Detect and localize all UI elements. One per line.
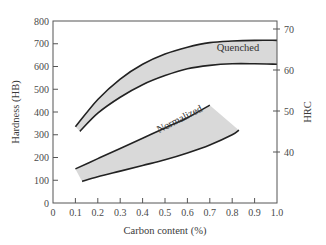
x-tick-label: 0.8 xyxy=(226,207,239,218)
y2-tick-label: 60 xyxy=(284,65,294,76)
x-axis-title: Carbon content (%) xyxy=(124,225,207,237)
x-tick-label: 0.2 xyxy=(92,207,105,218)
x-tick-label: 0.9 xyxy=(248,207,261,218)
y-tick-label: 200 xyxy=(34,152,49,163)
x-tick-label: 0 xyxy=(51,207,56,218)
x-tick-label: 0.7 xyxy=(204,207,217,218)
y-tick-label: 700 xyxy=(34,38,49,49)
x-tick-label: 0.6 xyxy=(181,207,194,218)
y-tick-label: 100 xyxy=(34,175,49,186)
x-tick-label: 0.5 xyxy=(159,207,172,218)
band-label-quenched: Quenched xyxy=(217,42,260,53)
x-tick-label: 0.3 xyxy=(114,207,127,218)
x-tick-label: 0.1 xyxy=(69,207,82,218)
x-tick-label: 0.4 xyxy=(136,207,149,218)
hardness-vs-carbon-chart: 00.10.20.30.40.50.60.70.80.91.0010020030… xyxy=(0,0,326,245)
x-tick-label: 1.0 xyxy=(271,207,284,218)
y2-tick-label: 50 xyxy=(284,106,294,117)
y-tick-label: 600 xyxy=(34,61,49,72)
y2-axis-title: HRC xyxy=(302,101,313,123)
y-axis-title: Hardness (HB) xyxy=(10,80,22,144)
y-tick-label: 500 xyxy=(34,84,49,95)
y-tick-label: 400 xyxy=(34,107,49,118)
y-tick-label: 300 xyxy=(34,129,49,140)
data-bands xyxy=(75,40,277,181)
y2-tick-label: 40 xyxy=(284,147,294,158)
y-tick-label: 0 xyxy=(44,198,49,209)
y-tick-label: 800 xyxy=(34,16,49,27)
y2-tick-label: 70 xyxy=(284,24,294,35)
